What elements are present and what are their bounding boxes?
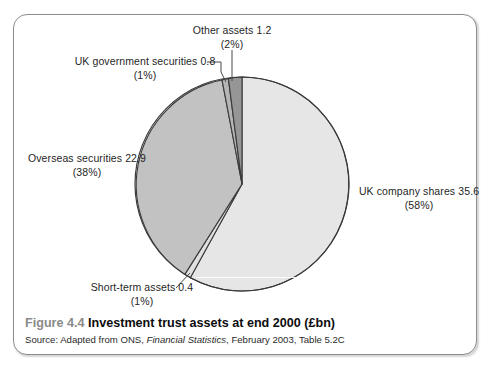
label-short-term-assets: Short-term assets 0.4 (1%) (62, 281, 222, 308)
source-prefix: Source: Adapted from ONS, (25, 334, 147, 345)
label-uk-government-securities-pct: (1%) (60, 69, 230, 83)
label-uk-company-shares: UK company shares 35.6 (58%) (349, 185, 489, 212)
figure-source-line: Source: Adapted from ONS, Financial Stat… (25, 333, 455, 346)
pie-chart (131, 73, 353, 295)
figure-number: Figure 4.4 (25, 316, 85, 330)
label-uk-company-shares-name: UK company shares 35.6 (359, 185, 479, 197)
figure-caption-block: Figure 4.4 Investment trust assets at en… (25, 316, 455, 346)
label-overseas-securities-pct: (38%) (13, 166, 161, 180)
scan-artifact-line (196, 277, 340, 278)
label-short-term-assets-name: Short-term assets 0.4 (91, 281, 194, 293)
label-short-term-assets-pct: (1%) (62, 295, 222, 309)
source-suffix: , February 2003, Table 5.2C (226, 334, 345, 345)
figure-caption-title: Figure 4.4 Investment trust assets at en… (25, 316, 455, 331)
label-other-assets-pct: (2%) (168, 38, 296, 52)
pie-svg (131, 73, 353, 295)
figure-title-text: Investment trust assets at end 2000 (£bn… (88, 316, 335, 330)
label-uk-company-shares-pct: (58%) (349, 199, 489, 213)
source-publication: Financial Statistics (147, 334, 226, 345)
label-other-assets-name: Other assets 1.2 (193, 24, 272, 36)
label-overseas-securities-name: Overseas securities 22.9 (28, 152, 146, 164)
label-other-assets: Other assets 1.2 (2%) (168, 24, 296, 51)
figure-root: Other assets 1.2 (2%) UK government secu… (0, 0, 491, 372)
label-uk-government-securities-name: UK government securities 0.8 (75, 55, 216, 67)
label-overseas-securities: Overseas securities 22.9 (38%) (13, 152, 161, 179)
label-uk-government-securities: UK government securities 0.8 (1%) (60, 55, 230, 82)
